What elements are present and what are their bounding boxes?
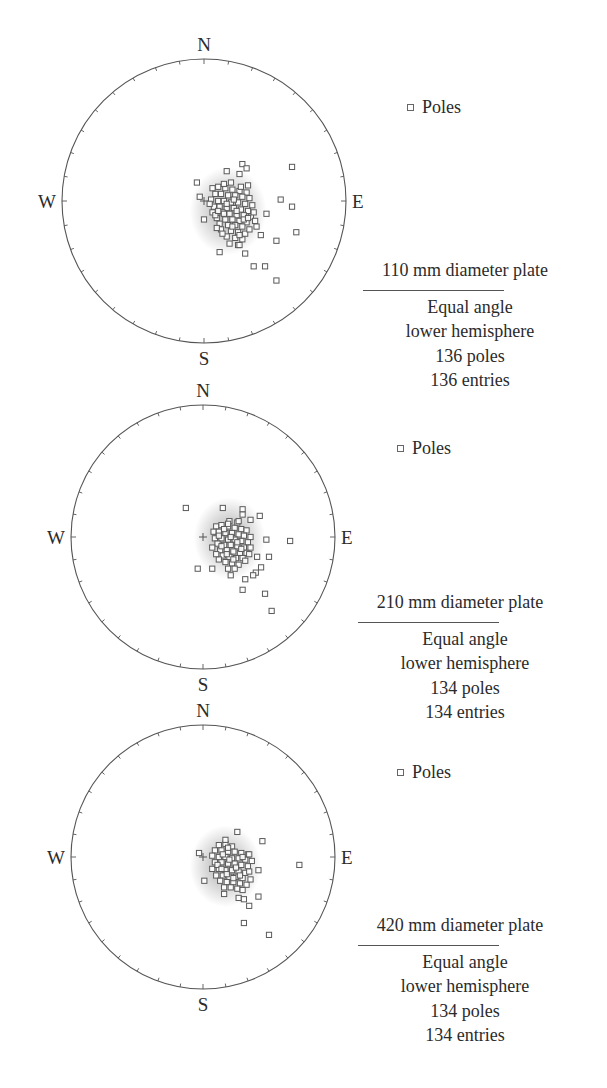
pole-marker <box>219 536 224 541</box>
pole-marker <box>229 844 234 849</box>
pole-marker <box>224 872 229 877</box>
legend-label: Poles <box>412 438 451 459</box>
pole-marker <box>228 180 233 185</box>
pole-marker <box>240 854 245 859</box>
pole-marker <box>213 191 218 196</box>
south-label: S <box>198 994 209 1015</box>
density-contour <box>190 825 261 907</box>
pole-marker <box>235 540 240 545</box>
pole-marker <box>227 874 232 879</box>
pole-marker <box>254 224 259 229</box>
pole-marker <box>222 885 227 890</box>
projection-label: Equal angle <box>345 627 585 652</box>
pole-marker <box>232 537 237 542</box>
pole-marker <box>240 587 245 592</box>
pole-marker <box>266 554 271 559</box>
pole-marker <box>215 862 220 867</box>
pole-marker <box>222 542 227 547</box>
poles-count: 136 poles <box>350 344 590 369</box>
square-marker-icon <box>397 769 404 776</box>
pole-marker <box>231 197 236 202</box>
pole-marker <box>256 894 261 899</box>
pole-marker <box>237 232 242 237</box>
pole-marker <box>232 525 237 530</box>
pole-marker <box>247 869 252 874</box>
pole-marker <box>231 879 236 884</box>
pole-marker <box>220 231 225 236</box>
stereonet-plot: NSWE <box>0 0 380 370</box>
pole-marker <box>238 184 243 189</box>
pole-marker <box>269 608 274 613</box>
pole-marker <box>227 554 232 559</box>
pole-marker <box>241 533 246 538</box>
pole-marker <box>210 545 215 550</box>
center-cross-icon <box>199 533 207 541</box>
pole-marker <box>253 218 258 223</box>
plot-title: 210 mm diameter plate <box>335 590 585 615</box>
pole-marker <box>243 857 248 862</box>
pole-marker <box>228 534 233 539</box>
pole-marker <box>289 204 294 209</box>
pole-marker <box>224 201 229 206</box>
pole-marker <box>240 556 245 561</box>
pole-marker <box>218 548 223 553</box>
legend-poles: Poles <box>397 438 451 459</box>
pole-marker <box>239 526 244 531</box>
pole-marker <box>225 524 230 529</box>
north-label: N <box>196 700 210 721</box>
pole-marker <box>195 566 200 571</box>
pole-marker <box>227 857 232 862</box>
pole-marker <box>222 891 227 896</box>
pole-marker <box>230 187 235 192</box>
west-label: W <box>38 191 56 212</box>
pole-marker <box>225 566 230 571</box>
pole-marker <box>218 191 223 196</box>
pole-marker <box>251 573 256 578</box>
pole-marker <box>237 171 242 176</box>
pole-marker <box>274 238 279 243</box>
pole-marker <box>225 845 230 850</box>
pole-marker <box>245 864 250 869</box>
pole-marker <box>210 853 215 858</box>
projection-label: Equal angle <box>350 295 590 320</box>
pole-marker <box>220 553 225 558</box>
pole-marker <box>234 208 239 213</box>
pole-marker <box>241 545 246 550</box>
pole-marker <box>201 217 206 222</box>
pole-marker <box>207 201 212 206</box>
title-divider <box>358 945 499 946</box>
pole-marker <box>230 224 235 229</box>
pole-marker <box>248 545 253 550</box>
east-label: E <box>341 847 353 868</box>
density-contour <box>194 497 265 579</box>
hemisphere-label: lower hemisphere <box>345 974 585 999</box>
pole-marker <box>262 591 267 596</box>
pole-marker <box>197 194 202 199</box>
pole-marker <box>225 521 230 526</box>
pole-marker <box>248 517 253 522</box>
pole-marker <box>227 211 232 216</box>
pole-marker <box>243 577 248 582</box>
pole-marker <box>240 887 245 892</box>
pole-marker <box>258 565 263 570</box>
south-label: S <box>198 674 209 695</box>
west-label: W <box>47 847 65 868</box>
pole-marker <box>289 164 294 169</box>
pole-marker <box>243 558 248 563</box>
pole-marker <box>229 856 234 861</box>
west-label: W <box>47 527 65 548</box>
pole-marker <box>223 841 228 846</box>
poles-count: 134 poles <box>345 676 585 701</box>
pole-marker <box>224 552 229 557</box>
pole-marker <box>194 180 199 185</box>
title-divider <box>358 622 499 623</box>
pole-marker <box>236 869 241 874</box>
pole-marker <box>256 868 261 873</box>
pole-marker <box>249 858 254 863</box>
pole-marker <box>244 528 249 533</box>
pole-marker <box>229 561 234 566</box>
pole-marker <box>225 537 230 542</box>
plot-info: 210 mm diameter plate Equal angle lower … <box>345 590 585 725</box>
hemisphere-label: lower hemisphere <box>350 319 590 344</box>
north-label: N <box>197 34 211 55</box>
